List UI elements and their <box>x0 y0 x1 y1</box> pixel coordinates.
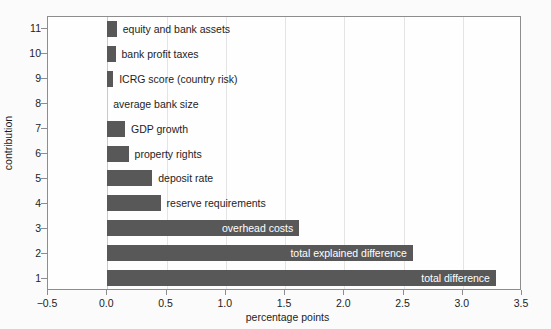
bar-label: reserve requirements <box>167 194 266 212</box>
bar-label: bank profit taxes <box>122 45 199 63</box>
y-tick-mark <box>41 78 47 79</box>
y-tick-mark <box>41 28 47 29</box>
bar[interactable] <box>107 46 115 62</box>
x-tick-label: 2.5 <box>373 297 433 309</box>
bar-label: property rights <box>135 145 202 163</box>
bar-label: equity and bank assets <box>123 20 230 38</box>
x-axis-title: percentage points <box>0 311 551 323</box>
bar[interactable] <box>107 170 152 186</box>
y-tick-label: 10 <box>17 48 41 58</box>
x-tick-label: 0.5 <box>136 297 196 309</box>
bar-row[interactable]: total difference <box>48 266 520 291</box>
y-tick-label: 7 <box>17 123 41 133</box>
y-tick-label: 2 <box>17 248 41 258</box>
x-tick-mark <box>225 290 226 295</box>
y-tick-label: 3 <box>17 223 41 233</box>
x-axis-title-text: percentage points <box>222 311 329 323</box>
bar[interactable] <box>107 195 160 211</box>
y-tick-mark <box>41 53 47 54</box>
x-tick-mark <box>462 290 463 295</box>
y-tick-label: 5 <box>17 173 41 183</box>
bar-row[interactable]: property rights <box>48 142 520 167</box>
y-tick-label: 11 <box>17 23 41 33</box>
bar[interactable] <box>107 21 116 37</box>
bar-row[interactable]: average bank size <box>48 92 520 117</box>
x-tick-label: 0.0 <box>76 297 136 309</box>
y-axis-title: contribution <box>2 63 14 223</box>
x-tick-label: 1.0 <box>195 297 255 309</box>
x-tick-mark <box>166 290 167 295</box>
bar[interactable] <box>107 71 113 87</box>
y-tick-label: 9 <box>17 73 41 83</box>
bar-label: total explained difference <box>290 245 407 261</box>
bar-row[interactable]: total explained difference <box>48 241 520 266</box>
x-tick-label: 3.5 <box>491 297 551 309</box>
bar-label: ICRG score (country risk) <box>119 70 237 88</box>
x-tick-mark <box>106 290 107 295</box>
x-tick-mark <box>284 290 285 295</box>
y-tick-label: 1 <box>17 273 41 283</box>
x-tick-label: 2.0 <box>313 297 373 309</box>
y-tick-mark <box>41 203 47 204</box>
y-tick-mark <box>41 153 47 154</box>
bar-label: total difference <box>421 270 490 286</box>
bar[interactable] <box>107 121 125 137</box>
x-tick-mark <box>403 290 404 295</box>
y-tick-mark <box>41 253 47 254</box>
bar-label: average bank size <box>113 95 198 113</box>
bar-row[interactable]: bank profit taxes <box>48 42 520 67</box>
y-tick-label: 4 <box>17 198 41 208</box>
y-tick-mark <box>41 228 47 229</box>
y-tick-label: 8 <box>17 98 41 108</box>
x-tick-label: 3.0 <box>432 297 492 309</box>
bar-label: GDP growth <box>131 120 188 138</box>
bar-row[interactable]: ICRG score (country risk) <box>48 67 520 92</box>
bar-label: deposit rate <box>158 169 213 187</box>
bar-row[interactable]: overhead costs <box>48 216 520 241</box>
y-tick-mark <box>41 278 47 279</box>
y-tick-mark <box>41 178 47 179</box>
bar-label: overhead costs <box>222 220 293 236</box>
x-tick-mark <box>47 290 48 295</box>
bar-chart-figure: total differencetotal explained differen… <box>0 0 551 329</box>
bar-row[interactable]: GDP growth <box>48 117 520 142</box>
bar-row[interactable]: deposit rate <box>48 166 520 191</box>
x-tick-mark <box>521 290 522 295</box>
plot-area: total differencetotal explained differen… <box>47 16 521 290</box>
bar-row[interactable]: equity and bank assets <box>48 17 520 42</box>
x-tick-label: −0.5 <box>17 297 77 309</box>
x-tick-label: 1.5 <box>254 297 314 309</box>
bar-row[interactable]: reserve requirements <box>48 191 520 216</box>
y-tick-mark <box>41 128 47 129</box>
y-tick-label: 6 <box>17 148 41 158</box>
bar[interactable] <box>107 146 128 162</box>
y-tick-mark <box>41 103 47 104</box>
x-tick-mark <box>343 290 344 295</box>
